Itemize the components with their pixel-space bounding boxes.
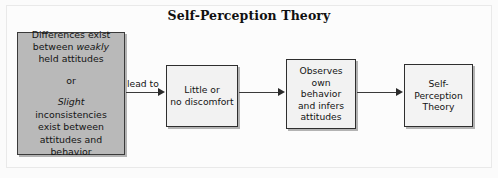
premise-line-6: exist between — [21, 121, 121, 133]
connector-discomfort-to-observes — [239, 92, 280, 93]
discomfort-line-2: no discomfort — [170, 96, 234, 108]
premise-spacer-top — [21, 66, 121, 75]
connector-premise-to-discomfort — [126, 92, 160, 93]
observes-line-1: Observes — [290, 65, 352, 77]
premise-line-or: or — [21, 75, 121, 87]
connector-label-lead-to: lead to — [127, 78, 159, 89]
premise-line-1: Differences exist — [21, 29, 121, 41]
observes-line-2: own behavior — [290, 77, 352, 100]
node-theory: Self- Perception Theory — [404, 64, 473, 127]
observes-line-4: attitudes — [290, 111, 352, 123]
arrowhead-icon-2 — [278, 88, 285, 96]
premise-line-5-italic: Slight — [58, 96, 85, 107]
premise-line-5: Slight inconsistencies — [21, 96, 121, 121]
theory-line-2: Perception — [408, 90, 469, 102]
premise-spacer-bottom — [21, 87, 121, 96]
arrowhead-icon-3 — [396, 88, 403, 96]
node-observes: Observes own behavior and infers attitud… — [286, 59, 356, 129]
discomfort-line-1: Little or — [170, 84, 234, 96]
premise-line-2: between weakly — [21, 41, 121, 53]
node-premise: Differences exist between weakly held at… — [17, 32, 125, 155]
premise-line-7: attitudes and — [21, 134, 121, 146]
observes-line-3: and infers — [290, 100, 352, 112]
premise-line-3: held attitudes — [21, 53, 121, 65]
node-discomfort: Little or no discomfort — [166, 65, 238, 127]
premise-line-5-suffix: inconsistencies — [35, 109, 107, 120]
figure-title: Self-Perception Theory — [0, 8, 498, 23]
theory-line-3: Theory — [408, 101, 469, 113]
connector-observes-to-theory — [357, 92, 398, 93]
premise-line-2-italic: weakly — [76, 41, 109, 52]
premise-line-2-prefix: between — [33, 41, 77, 52]
theory-line-1: Self- — [408, 78, 469, 90]
arrowhead-icon-1 — [158, 88, 165, 96]
figure-self-perception-theory: Self-Perception Theory Differences exist… — [0, 0, 498, 178]
premise-line-8: behavior — [21, 146, 121, 158]
